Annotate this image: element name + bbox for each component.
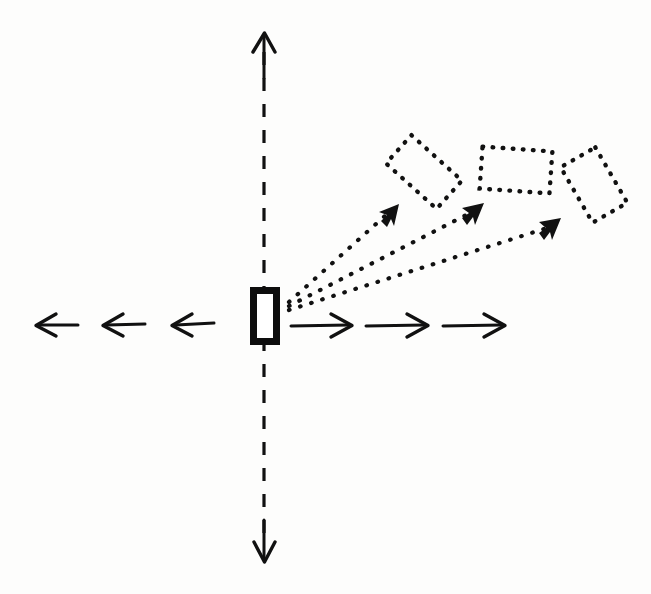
- right-arrow-3: [443, 314, 505, 337]
- trajectory-3: [289, 218, 561, 310]
- trajectories: [289, 203, 561, 310]
- vertical-axis-up-arrow-icon: [253, 33, 275, 78]
- vertical-axis-down-arrow-icon: [254, 520, 275, 562]
- launcher-block: [254, 291, 277, 342]
- projectile-3: [561, 147, 628, 222]
- trajectory-1: [289, 204, 399, 302]
- diagram-svg: [0, 0, 651, 594]
- left-arrow-2: [172, 314, 214, 336]
- projectile-1: [386, 135, 462, 209]
- left-arrow-1: [103, 314, 145, 336]
- right-arrow-1: [291, 314, 352, 337]
- projectiles: [386, 135, 627, 223]
- horizontal-axis-right: [291, 314, 505, 337]
- projectile-2: [480, 147, 553, 194]
- diagram-canvas: [0, 0, 651, 594]
- trajectory-1-arrowhead-icon: [379, 204, 399, 227]
- left-arrow-3: [36, 314, 78, 336]
- horizontal-axis-left: [36, 314, 214, 336]
- right-arrow-2: [366, 314, 428, 337]
